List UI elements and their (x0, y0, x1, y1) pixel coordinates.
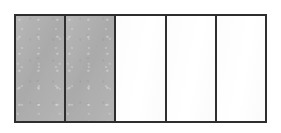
fraction-cell-4[interactable] (167, 16, 217, 121)
fraction-cell-1[interactable] (16, 16, 66, 121)
fraction-cell-2[interactable] (66, 16, 116, 121)
fraction-cell-5[interactable] (217, 16, 265, 121)
figure-canvas (0, 0, 281, 133)
fraction-bar (14, 14, 267, 123)
fraction-cell-3[interactable] (116, 16, 166, 121)
